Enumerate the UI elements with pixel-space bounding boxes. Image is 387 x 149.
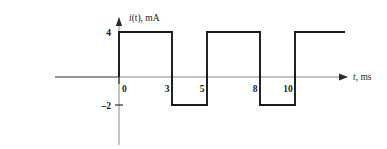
x-tick-label-3: 3 [165, 84, 170, 94]
x-tick-label-5: 5 [200, 84, 205, 94]
x-axis-label-units: , ms [356, 72, 372, 82]
waveform-trace [119, 32, 345, 105]
waveform-plot: 0 3 5 8 10 4 –2 i(t), mA t, ms [0, 0, 387, 149]
x-tick-label-10: 10 [283, 84, 293, 94]
x-tick-label-8: 8 [253, 84, 258, 94]
x-tick-label-0: 0 [122, 84, 127, 94]
waveform-figure: 0 3 5 8 10 4 –2 i(t), mA t, ms [0, 0, 387, 149]
y-axis-label-rest: (t), mA [132, 13, 160, 24]
x-axis-label: t, ms [353, 72, 372, 82]
x-axis-arrowhead [339, 74, 348, 81]
y-tick-label-minus2: –2 [101, 101, 112, 111]
y-axis-label: i(t), mA [129, 13, 160, 24]
y-axis-arrowhead [116, 17, 122, 26]
y-tick-label-4: 4 [106, 28, 111, 38]
